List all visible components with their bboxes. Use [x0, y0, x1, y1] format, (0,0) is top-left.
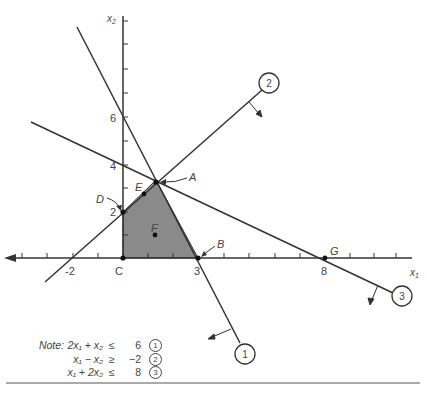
point-d [120, 209, 125, 214]
point-c [120, 255, 125, 260]
constraint-line-1 [77, 27, 240, 343]
note-lhs: x₁ − x₂ [67, 353, 105, 367]
note-rhs: 6 [119, 339, 149, 353]
direction-arrow-2-icon [249, 102, 262, 117]
point-a [153, 179, 158, 184]
note-lead: Note: [20, 339, 67, 353]
note-marker: 1 [149, 339, 162, 352]
note-rhs: 8 [119, 366, 149, 380]
svg-text:3: 3 [399, 291, 405, 302]
label-e: E [135, 181, 143, 193]
note-op: ≤ [105, 366, 119, 380]
svg-text:2: 2 [266, 78, 272, 89]
note-marker: 3 [149, 366, 162, 379]
note-op: ≤ [105, 339, 119, 353]
y-tick-label-2: 2 [110, 206, 116, 218]
leader-d-head-icon [116, 205, 122, 211]
note-lhs: x₁ + 2x₂ [67, 366, 105, 380]
svg-text:1: 1 [242, 349, 248, 360]
note-row-2: x₁ − x₂ ≥ −2 2 [20, 353, 162, 367]
x-axis-label: x1 [409, 267, 419, 279]
lp-diagram: 1 2 3 A B C D E F G -2 3 8 2 4 6 x2 x1 [0, 0, 427, 396]
label-d: D [96, 193, 104, 205]
constraint-line-3 [31, 122, 393, 293]
constraint-marker-2: 2 [259, 73, 279, 93]
y-tick-label-4: 4 [110, 160, 116, 172]
x-axis-arrow-icon [4, 254, 16, 262]
note-lhs: 2x₁ + x₂ [67, 339, 105, 353]
point-b [195, 255, 200, 260]
leader-b-head-icon [201, 251, 207, 257]
label-g: G [330, 245, 339, 257]
note-marker: 2 [149, 353, 162, 366]
note-row-1: Note: 2x₁ + x₂ ≤ 6 1 [20, 339, 162, 353]
x-tick-label-3: 3 [194, 265, 200, 277]
note-rhs: −2 [119, 353, 149, 367]
label-b: B [217, 238, 224, 250]
constraints-note: Note: 2x₁ + x₂ ≤ 6 1 x₁ − x₂ ≥ −2 2 x₁ +… [20, 339, 162, 380]
constraint-marker-1: 1 [235, 344, 255, 364]
direction-arrow-1-icon [208, 329, 231, 339]
y-tick-label-6: 6 [110, 112, 116, 124]
x-tick-label-8: 8 [321, 265, 327, 277]
direction-arrow-3-icon [368, 285, 378, 305]
label-c: C [115, 265, 123, 277]
note-row-3: x₁ + 2x₂ ≤ 8 3 [20, 366, 162, 380]
point-g [323, 256, 328, 261]
note-op: ≥ [105, 353, 119, 367]
constraint-marker-3: 3 [392, 286, 412, 306]
y-axis-label: x2 [106, 13, 116, 25]
label-a: A [188, 171, 196, 183]
x-tick-label-neg2: -2 [65, 265, 75, 277]
